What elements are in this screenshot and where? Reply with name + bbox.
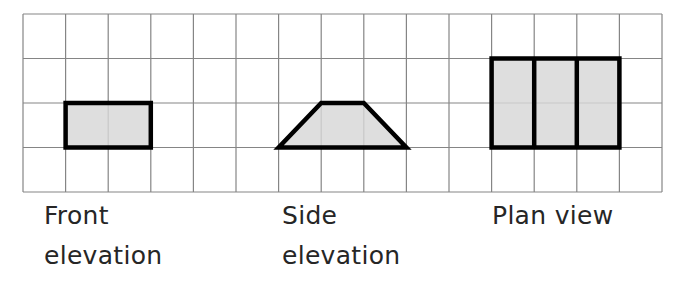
plan-view-label-line1: Plan view <box>492 196 613 236</box>
plan-view-label: Plan view <box>492 196 613 236</box>
side-elevation-label-line1: Side <box>282 196 400 236</box>
plan-view-shape <box>492 59 620 148</box>
front-elevation-label-line2: elevation <box>44 236 162 276</box>
side-elevation-label-line2: elevation <box>282 236 400 276</box>
elevations-diagram: Front elevation Side elevation Plan view <box>0 0 683 288</box>
side-elevation-shape <box>279 103 407 148</box>
front-elevation-label: Front elevation <box>44 196 162 276</box>
front-elevation-label-line1: Front <box>44 196 162 236</box>
front-elevation-shape <box>66 103 151 148</box>
side-elevation-label: Side elevation <box>282 196 400 276</box>
